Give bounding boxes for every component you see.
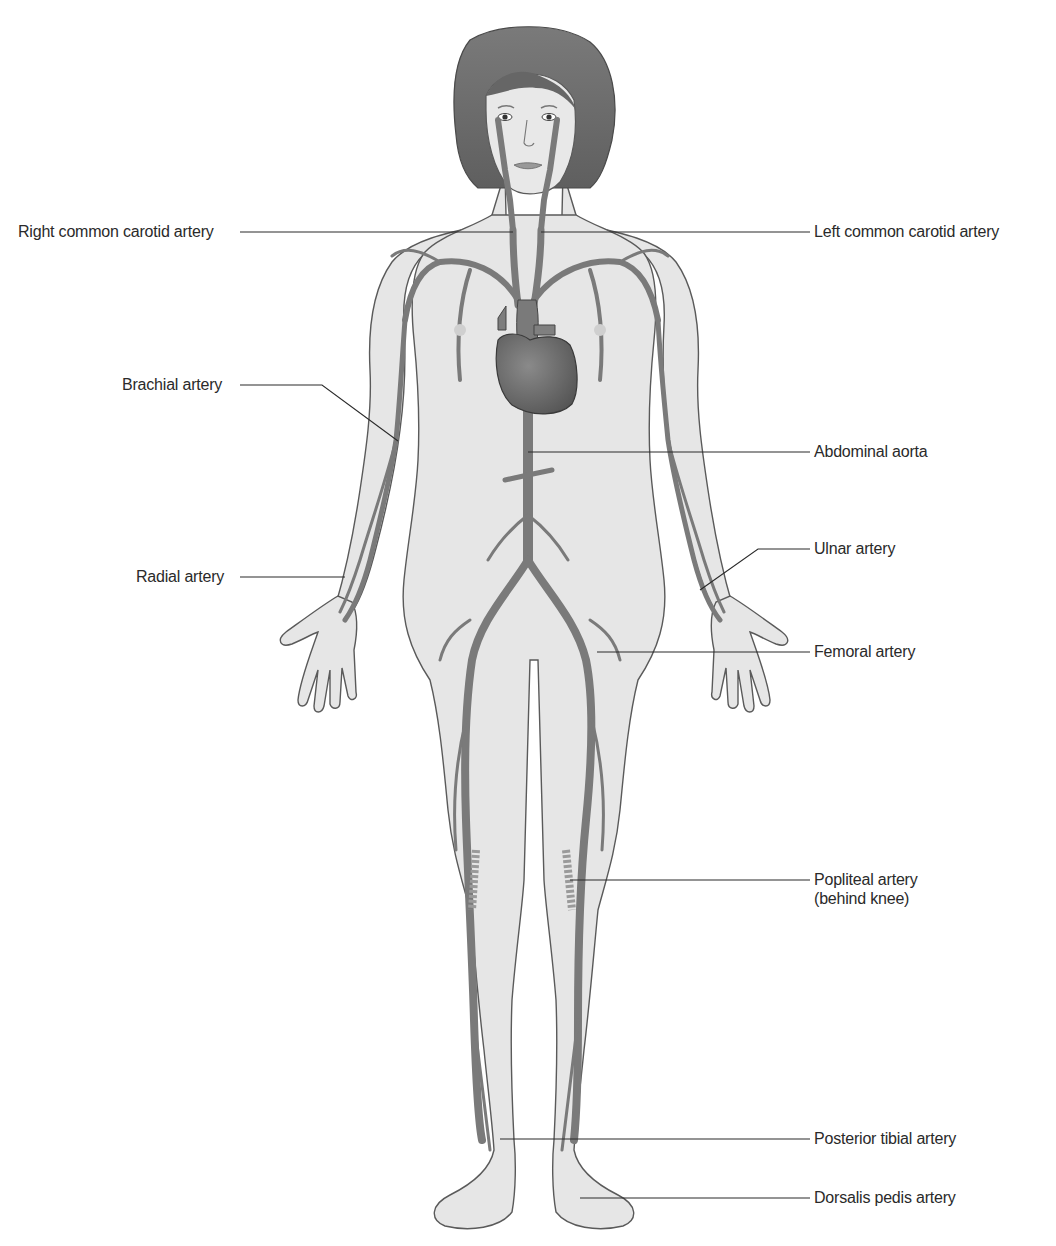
label-posterior-tibial-artery: Posterior tibial artery	[814, 1129, 956, 1148]
label-radial-artery: Radial artery	[136, 567, 224, 586]
breast-mark-left	[454, 324, 466, 336]
anatomy-figure	[0, 0, 1056, 1246]
label-abdominal-aorta: Abdominal aorta	[814, 442, 928, 461]
label-dorsalis-pedis-artery: Dorsalis pedis artery	[814, 1188, 956, 1207]
breast-mark-right	[594, 324, 606, 336]
label-popliteal-line1: Popliteal artery	[814, 870, 918, 889]
label-popliteal-artery: Popliteal artery (behind knee)	[814, 870, 918, 908]
label-ulnar-artery: Ulnar artery	[814, 539, 895, 558]
label-femoral-artery: Femoral artery	[814, 642, 915, 661]
label-left-common-carotid-artery: Left common carotid artery	[814, 222, 999, 241]
label-right-common-carotid-artery: Right common carotid artery	[18, 222, 214, 241]
label-popliteal-line2: (behind knee)	[814, 889, 918, 908]
head	[454, 27, 615, 194]
label-brachial-artery: Brachial artery	[122, 375, 222, 394]
